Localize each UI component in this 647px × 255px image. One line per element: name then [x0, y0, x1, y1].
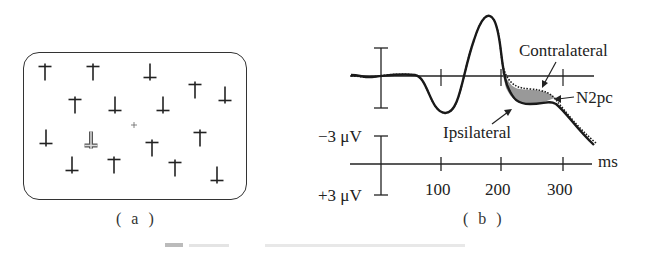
contralateral-label: Contralateral — [519, 42, 608, 59]
neg-voltage-label: −3 μV — [318, 128, 362, 145]
target-item-icon — [85, 132, 98, 149]
figure-caption — [165, 241, 465, 249]
tick-300: 300 — [547, 181, 573, 198]
distractor-item-icon — [219, 87, 232, 104]
tick-200: 200 — [485, 181, 511, 198]
distractor-item-icon — [211, 167, 224, 184]
distractor-item-icon — [108, 157, 121, 174]
panel-a-label: ( a ) — [116, 210, 157, 228]
distractor-item-icon — [40, 130, 53, 147]
distractor-item-icon — [87, 64, 100, 81]
fixation-cross-icon — [131, 122, 137, 128]
search-items — [39, 64, 232, 184]
tick-100: 100 — [425, 181, 451, 198]
n2pc-label: N2pc — [576, 89, 613, 106]
x-unit-label: ms — [598, 153, 618, 170]
contralateral-arrow — [544, 62, 556, 84]
distractor-item-icon — [194, 130, 207, 147]
distractor-item-icon — [146, 140, 159, 157]
distractor-item-icon — [109, 97, 122, 114]
panel-b-label: ( b ) — [463, 210, 505, 228]
distractor-item-icon — [189, 82, 202, 99]
distractor-item-icon — [66, 157, 79, 174]
distractor-item-icon — [39, 64, 52, 81]
distractor-item-icon — [157, 97, 170, 114]
distractor-item-icon — [69, 97, 82, 114]
ipsilateral-label: Ipsilateral — [443, 124, 511, 141]
distractor-item-icon — [144, 64, 157, 81]
pos-voltage-label: +3 μV — [318, 187, 362, 204]
distractor-item-icon — [169, 160, 182, 177]
